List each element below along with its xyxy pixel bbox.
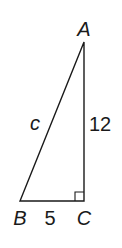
- vertical-leg-label: 12: [89, 113, 111, 135]
- right-angle-marker: [75, 192, 84, 201]
- vertex-label-a: A: [76, 18, 90, 40]
- hypotenuse-label: c: [30, 112, 40, 134]
- vertex-label-c: C: [77, 207, 92, 229]
- base-label: 5: [44, 207, 55, 229]
- vertex-label-b: B: [13, 207, 26, 229]
- right-triangle-diagram: A B C c 12 5: [0, 0, 122, 248]
